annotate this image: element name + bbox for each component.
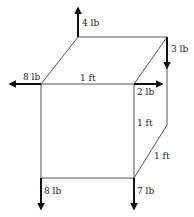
force-label: 3 lb [171,44,188,54]
dimension-label: 1 ft [154,151,170,161]
force-label: 7 lb [137,186,154,196]
dimension-label: 1 ft [137,118,153,128]
cube-diagram: 4 lb 3 lb 8 lb 2 lb 8 lb 7 lb 1 ft 1 ft … [0,0,194,217]
top-right-depth-edge [134,37,167,84]
force-label: 8 lb [23,72,40,82]
top-left-depth-edge [41,37,78,84]
dimension-label: 1 ft [80,73,96,83]
force-label: 8 lb [44,186,61,196]
force-label: 4 lb [82,18,99,28]
force-label: 2 lb [137,87,154,97]
force-arrows [10,8,167,209]
cube-edges [41,37,167,178]
